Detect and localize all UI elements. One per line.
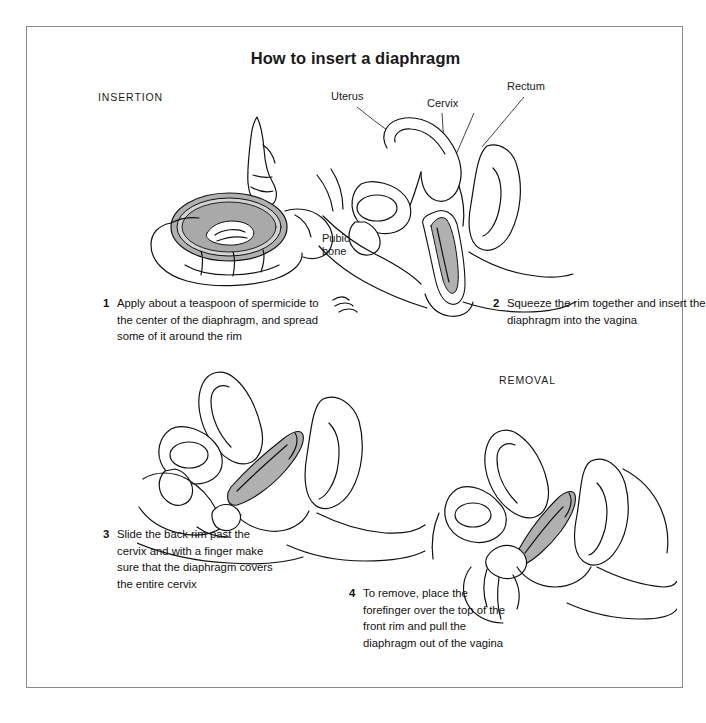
- step-text-1: Apply about a teaspoon of spermicide to …: [117, 295, 328, 345]
- step-caption-1: 1 Apply about a teaspoon of spermicide t…: [103, 295, 328, 345]
- step-number-3: 3: [103, 526, 109, 543]
- diagram-page: How to insert a diaphragm INSERTION REMO…: [0, 0, 706, 723]
- step-number-2: 2: [493, 295, 499, 312]
- anatomy-label-cervix: Cervix: [427, 97, 458, 110]
- page-title: How to insert a diaphragm: [27, 49, 684, 68]
- step-number-4: 4: [349, 585, 355, 602]
- illustration-step-2: [317, 112, 577, 322]
- step-caption-3: 3 Slide the back rim past the cervix and…: [103, 526, 278, 592]
- step-caption-4: 4 To remove, place the forefinger over t…: [349, 585, 514, 651]
- anatomy-label-uterus: Uterus: [331, 90, 363, 103]
- illustration-step-1: [145, 115, 345, 290]
- section-label-removal: REMOVAL: [499, 374, 556, 386]
- step-caption-2: 2 Squeeze the rim together and insert th…: [493, 295, 706, 328]
- step-text-4: To remove, place the forefinger over the…: [363, 585, 514, 651]
- illustration-frame: How to insert a diaphragm INSERTION REMO…: [26, 26, 683, 688]
- step-text-3: Slide the back rim past the cervix and w…: [117, 526, 278, 592]
- section-label-insertion: INSERTION: [98, 91, 163, 103]
- anatomy-label-rectum: Rectum: [507, 80, 545, 93]
- step-number-1: 1: [103, 295, 109, 312]
- step-text-2: Squeeze the rim together and insert the …: [507, 295, 706, 328]
- page-header-remnant: [0, 0, 706, 8]
